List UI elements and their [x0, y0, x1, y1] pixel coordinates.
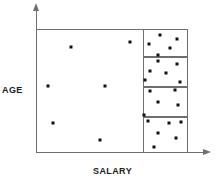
data-point	[69, 45, 72, 48]
data-point	[148, 42, 151, 45]
y-axis-arrow-icon	[33, 3, 39, 11]
data-point	[156, 131, 159, 134]
data-point	[157, 54, 160, 57]
data-point	[164, 72, 167, 75]
data-point	[47, 85, 50, 88]
data-point	[177, 104, 180, 107]
data-point	[149, 90, 152, 93]
data-point	[52, 121, 55, 124]
x-axis-arrow-icon	[203, 149, 211, 155]
data-point	[176, 37, 179, 40]
data-point	[142, 113, 145, 116]
data-point	[157, 101, 160, 104]
data-point	[129, 41, 132, 44]
data-point	[179, 80, 182, 83]
scatter-plot-figure: AGE SALARY	[0, 0, 217, 183]
x-axis-label: SALARY	[93, 166, 132, 176]
data-point	[168, 46, 171, 49]
data-point	[143, 79, 146, 82]
data-point	[98, 138, 101, 141]
data-point	[158, 33, 161, 36]
data-point	[146, 120, 149, 123]
data-point	[174, 89, 177, 92]
data-point	[156, 59, 159, 62]
y-axis-label: AGE	[2, 85, 23, 95]
data-point	[168, 122, 171, 125]
data-point	[175, 62, 178, 65]
data-point	[149, 70, 152, 73]
data-point	[174, 137, 177, 140]
data-point	[180, 121, 183, 124]
data-point	[152, 145, 155, 148]
data-point	[104, 85, 107, 88]
